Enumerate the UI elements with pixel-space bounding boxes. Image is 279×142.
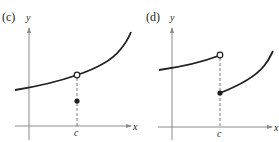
tick-label-c: c	[74, 127, 79, 138]
tick-label-d: c	[217, 128, 222, 139]
open-circle-d	[217, 52, 223, 58]
panel-label-c: (c)	[2, 10, 15, 24]
y-axis-label-d: y	[169, 12, 175, 23]
filled-point-d	[217, 90, 222, 95]
curve-left-d	[159, 56, 218, 70]
panel-c: (c) y x c	[2, 10, 138, 140]
curve-right-d	[220, 51, 273, 93]
curve-c	[15, 32, 131, 90]
figure: (c) y x c (d) y x c	[0, 0, 279, 142]
panel-d: (d) y x c	[146, 10, 279, 140]
x-axis-label-d: x	[273, 122, 279, 133]
panel-label-d: (d)	[146, 10, 160, 24]
x-axis-label-c: x	[132, 121, 138, 132]
filled-point-c	[74, 98, 79, 103]
open-circle-c	[74, 72, 80, 78]
y-axis-label-c: y	[25, 12, 31, 23]
